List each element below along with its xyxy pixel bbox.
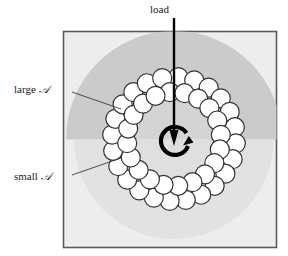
ball xyxy=(146,86,165,105)
label-large-symbol: 𝒜 xyxy=(39,83,49,96)
label-small-a: small 𝒜 xyxy=(14,171,51,182)
bearing-load-diagram xyxy=(0,0,288,256)
label-large-a: large 𝒜 xyxy=(14,84,49,95)
label-load-text: load xyxy=(150,3,169,15)
label-small-prefix: small xyxy=(14,170,41,182)
label-large-prefix: large xyxy=(14,83,39,95)
label-load: load xyxy=(150,4,169,15)
label-small-symbol: 𝒜 xyxy=(41,170,51,183)
